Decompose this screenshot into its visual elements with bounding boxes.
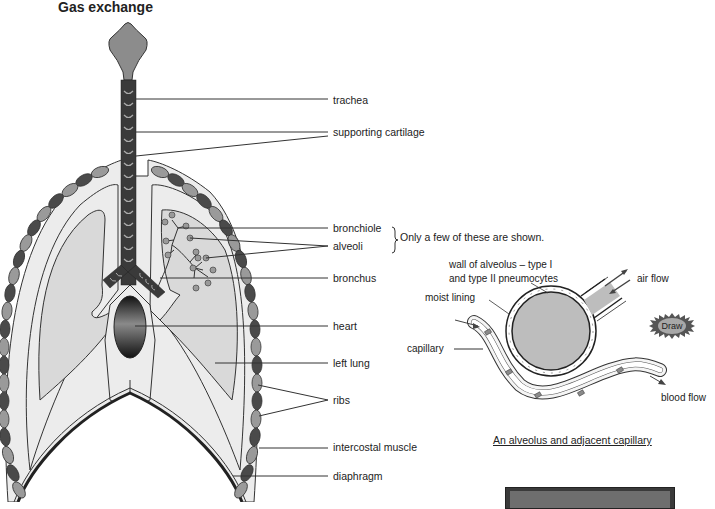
label-diaphragm: diaphragm bbox=[333, 470, 383, 482]
micrograph-image bbox=[505, 487, 675, 509]
label-ribs: ribs bbox=[333, 394, 350, 406]
label-alveoli: alveoli bbox=[333, 240, 363, 252]
trachea bbox=[121, 80, 136, 285]
micrograph-content bbox=[510, 491, 670, 508]
alveolus-diagram bbox=[454, 269, 666, 398]
alveolus-caption: An alveolus and adjacent capillary bbox=[493, 434, 652, 446]
label-heart: heart bbox=[333, 320, 357, 332]
label-capillary: capillary bbox=[407, 343, 444, 355]
label-wall-of-alveolus-line2: and type II pneumocytes bbox=[449, 273, 558, 285]
label-intercostal-muscle: intercostal muscle bbox=[333, 441, 417, 453]
label-blood-flow: blood flow bbox=[661, 392, 706, 404]
label-left-lung: left lung bbox=[333, 357, 370, 369]
label-bronchiole: bronchiole bbox=[333, 222, 381, 234]
draw-button[interactable]: Draw bbox=[649, 313, 695, 339]
heart bbox=[114, 296, 146, 358]
larynx bbox=[109, 23, 147, 81]
label-air-flow: air flow bbox=[637, 273, 669, 285]
label-moist-lining: moist lining bbox=[425, 292, 475, 304]
draw-button-label: Draw bbox=[649, 313, 695, 339]
label-bronchus: bronchus bbox=[333, 272, 376, 284]
note-only-few-shown: Only a few of these are shown. bbox=[400, 231, 544, 243]
label-supporting-cartilage: supporting cartilage bbox=[333, 126, 425, 138]
label-trachea: trachea bbox=[333, 94, 368, 106]
bracket bbox=[392, 227, 398, 253]
label-wall-of-alveolus-line1: wall of alveolus – type I bbox=[449, 259, 552, 271]
